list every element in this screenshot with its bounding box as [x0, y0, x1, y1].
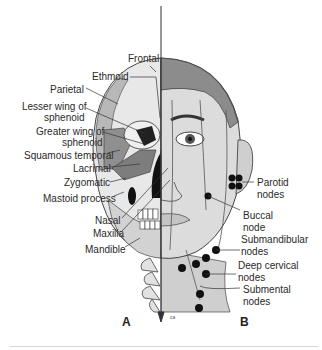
label-parotid: Parotid	[257, 177, 289, 188]
submandibular-node	[178, 264, 186, 272]
submental-node	[195, 304, 203, 312]
teeth	[138, 209, 160, 229]
label-lesser-wing-sphenoid: sphenoid	[44, 112, 85, 123]
bottom-divider	[10, 346, 318, 347]
label-frontal: Frontal	[128, 53, 159, 64]
label-maxilla: Maxilla	[93, 228, 124, 239]
parotid-node	[236, 175, 243, 182]
submandibular-node	[192, 260, 200, 268]
label-buccal: Buccal	[243, 210, 273, 221]
parotid-node	[229, 183, 236, 190]
label-greater-wing-sphenoid: sphenoid	[62, 137, 103, 148]
label-lacrimal: Lacrimal	[73, 163, 111, 174]
parotid-node	[229, 175, 236, 182]
label-mandible: Mandible	[85, 244, 126, 255]
artist-credit: ca	[170, 312, 175, 323]
label-ethmoid: Ethmoid	[92, 71, 129, 82]
label-mastoid-process: Mastoid process	[43, 193, 116, 204]
parotid-node	[236, 183, 243, 190]
label-deep-cervical-nodes: nodes	[238, 272, 265, 283]
label-submandibular-nodes: nodes	[241, 246, 268, 257]
panel-label-b: B	[240, 315, 249, 329]
label-squamous-temporal: Squamous temporal	[24, 150, 114, 161]
submandibular-node	[202, 254, 210, 262]
label-parietal: Parietal	[50, 84, 84, 95]
label-lesser-wing: Lesser wing of	[22, 101, 86, 112]
label-buccal-node: node	[243, 222, 265, 233]
label-submental-nodes: nodes	[243, 296, 270, 307]
submental-node	[196, 290, 204, 298]
cervical-vertebrae	[141, 258, 160, 312]
panel-label-a: A	[122, 315, 131, 329]
label-zygomatic: Zygomatic	[64, 177, 110, 188]
label-greater-wing: Greater wing of	[36, 126, 104, 137]
label-deep-cervical: Deep cervical	[238, 260, 299, 271]
label-parotid-nodes: nodes	[257, 189, 284, 200]
label-nasal: Nasal	[95, 215, 121, 226]
anatomy-figure	[0, 0, 322, 350]
label-submandibular: Submandibular	[241, 234, 308, 245]
label-submental: Submental	[243, 284, 291, 295]
